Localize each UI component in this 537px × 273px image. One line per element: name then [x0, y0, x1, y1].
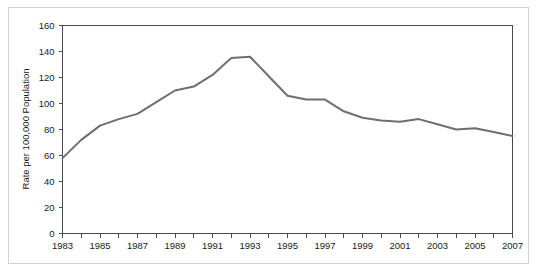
y-tick-label: 160: [39, 20, 55, 31]
y-tick-label: 20: [44, 202, 55, 213]
x-tick-label: 2007: [502, 240, 523, 251]
x-tick-label: 1989: [164, 240, 185, 251]
x-tick-label: 1987: [127, 240, 148, 251]
data-series-line: [63, 57, 513, 158]
x-axis-ticks: 1983198519871989199119931995199719992001…: [52, 234, 523, 251]
y-tick-label: 120: [39, 72, 55, 83]
x-tick-label: 1991: [202, 240, 223, 251]
y-tick-label: 100: [39, 98, 55, 109]
y-axis-title-text: Rate per 100,000 Population: [20, 69, 31, 190]
x-tick-label: 2005: [464, 240, 485, 251]
chart-figure: Rate per 100,000 Population 020406080100…: [0, 0, 537, 273]
x-tick-label: 1999: [352, 240, 373, 251]
x-tick-label: 1995: [277, 240, 298, 251]
y-tick-label: 40: [44, 176, 55, 187]
y-axis-ticks: 020406080100120140160: [39, 20, 63, 239]
y-tick-label: 80: [44, 124, 55, 135]
x-tick-label: 2001: [389, 240, 410, 251]
line-chart: Rate per 100,000 Population 020406080100…: [0, 0, 537, 273]
y-tick-label: 0: [49, 228, 54, 239]
x-tick-label: 1993: [239, 240, 260, 251]
y-tick-label: 140: [39, 46, 55, 57]
y-tick-label: 60: [44, 150, 55, 161]
x-tick-label: 2003: [427, 240, 448, 251]
x-tick-label: 1983: [52, 240, 73, 251]
y-axis-title: Rate per 100,000 Population: [20, 69, 31, 190]
x-tick-label: 1985: [89, 240, 110, 251]
x-tick-label: 1997: [314, 240, 335, 251]
